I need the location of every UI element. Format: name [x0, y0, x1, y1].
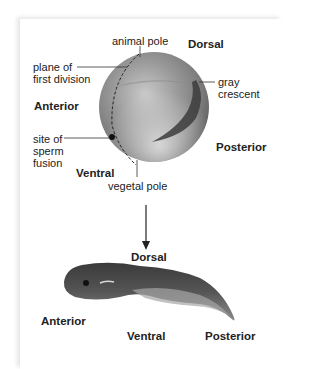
tadpole-posterior-label: Posterior [205, 330, 256, 342]
sperm-fusion-label-2: sperm [33, 145, 64, 157]
plane-of-first-division-label-1: plane of [33, 61, 72, 73]
egg-posterior-label: Posterior [216, 141, 267, 153]
sperm-fusion-label-1: site of [33, 133, 62, 145]
egg-dorsal-label: Dorsal [188, 38, 224, 50]
sperm-fusion-label-3: fusion [33, 157, 62, 169]
tadpole-anterior-label: Anterior [41, 315, 86, 327]
vegetal-pole-label: vegetal pole [108, 180, 167, 192]
sperm-fusion-dot [109, 134, 115, 140]
tadpole-dorsal-label: Dorsal [131, 251, 167, 263]
tadpole-ventral-label: Ventral [127, 330, 165, 342]
arrow-down [142, 205, 150, 250]
egg-anterior-label: Anterior [34, 100, 79, 112]
gray-crescent-label-1: gray [218, 76, 239, 88]
plane-of-first-division-label-2: first division [33, 73, 90, 85]
egg-ventral-label: Ventral [76, 167, 114, 179]
tadpole-image [64, 263, 235, 321]
animal-pole-label: animal pole [112, 35, 168, 47]
egg-sphere [99, 52, 209, 165]
gray-crescent-label-2: crescent [218, 88, 260, 100]
